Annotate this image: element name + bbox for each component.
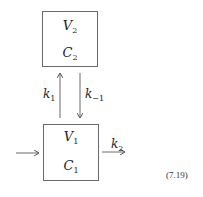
- compartment-2-volume: V2: [42, 19, 98, 37]
- rate-kminus1-label: k−1: [85, 88, 104, 105]
- compartment-1-concentration: C1: [43, 159, 99, 177]
- rate-k1-label: k1: [43, 88, 55, 105]
- equation-number: (7.19): [166, 170, 188, 180]
- rate-k2-label: k2: [111, 138, 123, 155]
- compartment-1-volume: V1: [43, 130, 99, 148]
- compartment-2-concentration: C2: [42, 46, 98, 64]
